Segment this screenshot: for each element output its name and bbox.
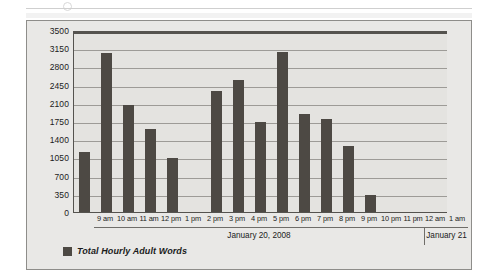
bar-slot	[184, 32, 206, 212]
x-axis-labels: 9 am10 am11 am12 pm1 pm2 pm3 pm4 pm5 pm6…	[94, 214, 468, 223]
bar-slot	[337, 32, 359, 212]
page-artifact-dot-icon	[63, 2, 72, 11]
bar-slot	[271, 32, 293, 212]
bar-slot	[118, 32, 140, 212]
bar	[277, 52, 288, 212]
legend-label: Total Hourly Adult Words	[77, 246, 187, 256]
bar-slot	[403, 32, 425, 212]
x-tick-label: 9 am	[94, 214, 116, 223]
x-tick-label: 5 pm	[270, 214, 292, 223]
x-tick-label: 12 pm	[160, 214, 182, 223]
x-tick-label: 10 am	[116, 214, 138, 223]
y-tick-label: 3150	[50, 44, 69, 54]
bar-slot	[315, 32, 337, 212]
y-tick-label: 0	[64, 208, 69, 218]
x-tick-label: 6 pm	[292, 214, 314, 223]
page-top-rule	[26, 8, 472, 9]
y-tick-label: 3500	[50, 26, 69, 36]
bar	[145, 129, 156, 212]
chart-page: 035070010501400175021002450280031503500 …	[0, 0, 498, 277]
legend-swatch-icon	[63, 247, 72, 256]
bar-slot	[74, 32, 96, 212]
bar-slot	[381, 32, 403, 212]
x-tick-label: 1 pm	[182, 214, 204, 223]
x-tick-label: 1 am	[446, 214, 468, 223]
x-tick-label: 12 am	[424, 214, 446, 223]
y-tick-label: 2800	[50, 62, 69, 72]
bar	[101, 53, 112, 212]
x-tick-label: 10 pm	[380, 214, 402, 223]
bar	[343, 146, 354, 212]
plot-area	[73, 31, 447, 213]
y-tick-label: 1750	[50, 117, 69, 127]
plot-wrapper: 035070010501400175021002450280031503500 …	[48, 31, 447, 224]
bar-slot	[293, 32, 315, 212]
bar	[123, 105, 134, 212]
x-tick-label: 3 pm	[226, 214, 248, 223]
x-tick-label: 9 pm	[358, 214, 380, 223]
bar-slot	[228, 32, 250, 212]
chart-legend: Total Hourly Adult Words	[63, 246, 187, 256]
bar	[167, 158, 178, 212]
chart-container: 035070010501400175021002450280031503500 …	[26, 20, 472, 270]
page-top-band	[26, 13, 472, 18]
y-tick-label: 700	[55, 172, 69, 182]
x-axis-date-groups: January 20, 2008 January 21	[94, 227, 468, 247]
date-group-label-2: January 21	[425, 231, 468, 240]
x-tick-label: 2 pm	[204, 214, 226, 223]
y-tick-label: 2450	[50, 81, 69, 91]
y-tick-label: 2100	[50, 99, 69, 109]
y-tick-label: 1050	[50, 153, 69, 163]
bar-slot	[359, 32, 381, 212]
y-axis-labels: 035070010501400175021002450280031503500	[48, 31, 72, 213]
x-tick-label: 11 am	[138, 214, 160, 223]
bar	[365, 195, 376, 212]
bar	[79, 152, 90, 212]
bar-slot	[162, 32, 184, 212]
bar	[211, 91, 222, 212]
bar	[255, 122, 266, 212]
bar-slot	[250, 32, 272, 212]
x-tick-label: 8 pm	[336, 214, 358, 223]
x-tick-label: 11 pm	[402, 214, 424, 223]
bar-slot	[425, 32, 447, 212]
bar-series	[74, 32, 447, 212]
date-group-label-1: January 20, 2008	[94, 231, 424, 240]
bar-slot	[206, 32, 228, 212]
bar-slot	[140, 32, 162, 212]
x-tick-label: 7 pm	[314, 214, 336, 223]
date-group-rule	[94, 227, 468, 228]
bar	[233, 80, 244, 212]
bar-slot	[96, 32, 118, 212]
bar	[299, 114, 310, 212]
bar	[321, 119, 332, 212]
y-tick-label: 1400	[50, 135, 69, 145]
x-tick-label: 4 pm	[248, 214, 270, 223]
y-tick-label: 350	[55, 190, 69, 200]
